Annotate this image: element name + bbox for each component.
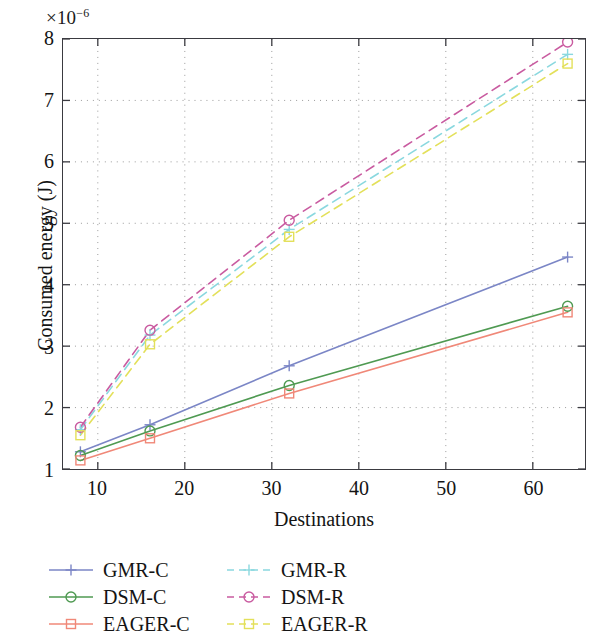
legend-swatch-dsm-c	[48, 590, 94, 604]
x-axis-title: Destinations	[62, 508, 586, 531]
legend-label: GMR-C	[103, 560, 169, 580]
legend-entry-dsm-r[interactable]: DSM-R	[226, 587, 396, 607]
legend-entry-eager-r[interactable]: EAGER-R	[226, 614, 396, 634]
chart-legend: GMR-CGMR-RDSM-CDSM-REAGER-CEAGER-R	[48, 556, 478, 637]
x-tick-label: 50	[421, 478, 471, 498]
legend-label: EAGER-R	[281, 614, 368, 634]
legend-entry-eager-c[interactable]: EAGER-C	[48, 614, 208, 634]
x-tick-label: 60	[509, 478, 559, 498]
legend-label: DSM-R	[281, 587, 344, 607]
legend-swatch-gmr-r	[226, 563, 272, 577]
x-tick-label: 20	[159, 478, 209, 498]
y-tick-label: 8	[16, 28, 54, 48]
y-axis-title: Consumed energy (J)	[34, 126, 57, 406]
legend-swatch-dsm-r	[226, 590, 272, 604]
y-tick-label: 7	[16, 90, 54, 110]
x-tick-label: 30	[247, 478, 297, 498]
legend-swatch-gmr-c	[48, 563, 94, 577]
legend-label: EAGER-C	[103, 614, 190, 634]
y-tick-label: 1	[16, 460, 54, 480]
legend-swatch-eager-c	[48, 617, 94, 631]
legend-label: GMR-R	[281, 560, 347, 580]
x-tick-label: 10	[72, 478, 122, 498]
legend-entry-gmr-c[interactable]: GMR-C	[48, 560, 208, 580]
x-tick-label: 40	[334, 478, 384, 498]
legend-swatch-eager-r	[226, 617, 272, 631]
figure-container: ×10−6 12345678 102030405060 Destinations…	[0, 0, 598, 638]
legend-entry-dsm-c[interactable]: DSM-C	[48, 587, 208, 607]
y-axis-tick-labels: 12345678	[0, 0, 598, 638]
legend-entry-gmr-r[interactable]: GMR-R	[226, 560, 396, 580]
legend-label: DSM-C	[103, 587, 166, 607]
